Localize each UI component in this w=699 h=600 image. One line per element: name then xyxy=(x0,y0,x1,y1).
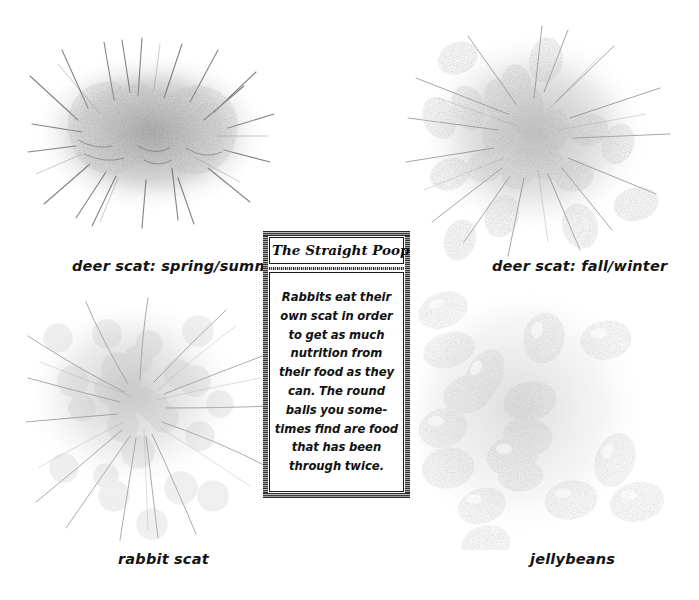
caption-rabbit-scat: rabbit scat xyxy=(118,551,209,567)
figure-jellybeans xyxy=(416,288,691,550)
sidebar-divider-rule xyxy=(269,267,404,270)
figure-deer-scat-spring-summer xyxy=(18,28,283,233)
sidebar-body-text: Rabbits eat their own scat in order to g… xyxy=(274,288,399,476)
sidebar-title-frame: The Straight Poop xyxy=(269,237,404,264)
caption-deer-scat-fall-winter: deer scat: fall/winter xyxy=(492,258,667,274)
caption-jellybeans: jellybeans xyxy=(530,551,615,567)
caption-deer-scat-spring-summer: deer scat: spring/summer xyxy=(72,258,287,274)
straight-poop-sidebar: The Straight Poop Rabbits eat their own … xyxy=(263,231,410,498)
sidebar-inner: The Straight Poop Rabbits eat their own … xyxy=(268,236,405,493)
illustration-page: deer scat: spring/summer xyxy=(0,0,699,600)
sidebar-body-frame: Rabbits eat their own scat in order to g… xyxy=(269,272,404,492)
figure-deer-scat-fall-winter xyxy=(398,18,688,263)
figure-rabbit-scat xyxy=(24,296,274,546)
sidebar-title: The Straight Poop xyxy=(272,242,401,258)
